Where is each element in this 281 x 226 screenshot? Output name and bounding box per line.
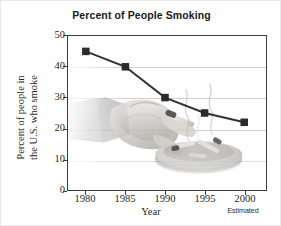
y-tick-label-20: 20: [45, 123, 65, 133]
y-tick-mark-30: [63, 97, 67, 98]
plot-area: [67, 35, 267, 191]
series-line: [86, 51, 244, 122]
chart-figure: Percent of People Smoking: [0, 0, 281, 226]
y-tick-mark-40: [63, 66, 67, 67]
y-axis-label: Percent of people in the U.S. who smoke: [15, 48, 40, 188]
y-tick-mark-20: [63, 129, 67, 130]
y-tick-mark-0: [63, 191, 67, 192]
y-tick-label-40: 40: [45, 61, 65, 71]
x-tick-label-2000: 2000: [222, 193, 268, 205]
data-point-1995: [201, 109, 209, 117]
y-tick-mark-50: [63, 35, 67, 36]
y-tick-mark-10: [63, 160, 67, 161]
data-point-1990: [161, 94, 169, 102]
data-point-1980: [82, 48, 90, 56]
y-tick-label-30: 30: [45, 92, 65, 102]
data-point-1985: [122, 63, 130, 71]
estimated-note: Estimated: [213, 207, 273, 214]
y-tick-label-50: 50: [45, 30, 65, 40]
data-point-2000: [240, 119, 248, 127]
y-axis-label-line2: the U.S. who smoke: [27, 48, 40, 188]
data-series-line: [68, 36, 266, 190]
x-axis-label: Year: [121, 206, 181, 217]
y-tick-label-10: 10: [45, 154, 65, 164]
y-axis-label-line1: Percent of people in: [15, 48, 28, 188]
